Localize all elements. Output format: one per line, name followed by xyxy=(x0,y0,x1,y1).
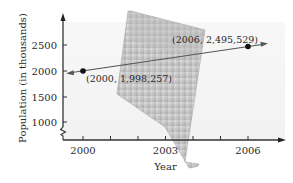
y-tick-label: 2500 xyxy=(32,40,57,51)
chart-svg: 2500 2000 1500 1000 2000 2003 2006 Year … xyxy=(0,0,293,183)
point-annotation-2000: (2000, 1,998,257) xyxy=(86,73,172,84)
chart-figure: 2500 2000 1500 1000 2000 2003 2006 Year … xyxy=(0,0,293,183)
y-tick-label: 1000 xyxy=(32,117,57,128)
y-tick-label: 1500 xyxy=(32,92,57,103)
x-tick-label: 2000 xyxy=(70,145,95,156)
y-tick-label: 2000 xyxy=(32,66,57,77)
y-axis-arrow-icon xyxy=(61,13,66,21)
point-annotation-2006: (2006, 2,495,529) xyxy=(172,34,258,45)
x-axis-title: Year xyxy=(153,161,177,172)
y-axis-title: Population (in thousands) xyxy=(17,13,28,143)
x-tick-label: 2003 xyxy=(153,145,178,156)
data-point-2000 xyxy=(80,68,86,74)
x-tick-label: 2006 xyxy=(235,145,260,156)
